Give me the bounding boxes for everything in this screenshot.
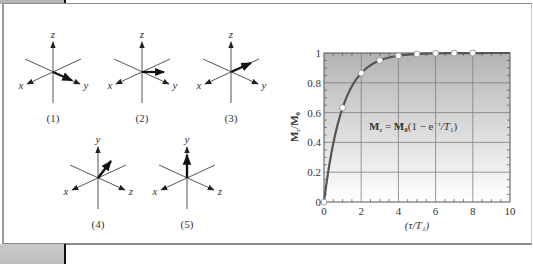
x-tick-label: 6	[433, 205, 439, 217]
x-tick-label: 8	[470, 205, 476, 217]
axis-label-left: x	[196, 79, 202, 91]
equation-annotation: Mz = M0(1 − e−τ/T1)	[369, 120, 457, 134]
axis-label-right: z	[217, 185, 223, 197]
y-axis-label: Mz/M0	[288, 111, 302, 142]
axis-label-right: y	[172, 79, 178, 91]
axis-label-top: z	[139, 28, 145, 40]
axis-label-left: x	[63, 185, 69, 197]
data-point-marker	[414, 51, 420, 57]
magnetization-vector-icon	[231, 63, 251, 72]
axis-label-top: z	[228, 28, 234, 40]
y-tick-label: 0.8	[307, 77, 321, 89]
data-point-marker	[433, 50, 439, 56]
x-tick-label: 4	[396, 205, 402, 217]
y-tick-label: 0.6	[307, 107, 321, 119]
data-point-marker	[451, 50, 457, 56]
figure-canvas: z x y (1) z x y (2) z x y (3) y x z (4)	[0, 0, 533, 264]
axes-diagram-3: z x y (3)	[196, 28, 267, 125]
relaxation-chart: 0 0.2 0.4 0.6 0.8 1 0 2 4 6 8 10 (τ/T₁) …	[288, 47, 516, 232]
axes-diagram-1: z x y (1)	[18, 28, 89, 125]
diagram-caption: (3)	[225, 112, 238, 125]
axis-label-left: x	[152, 185, 158, 197]
diagram-caption: (5)	[181, 218, 194, 231]
data-point-marker	[395, 53, 401, 59]
axis-label-top: y	[184, 133, 190, 145]
axis-label-right: y	[83, 79, 89, 91]
data-point-marker	[377, 57, 383, 63]
axes-diagram-4: y x z (4)	[63, 133, 134, 231]
axis-label-right: y	[261, 79, 267, 91]
axis-label-left: x	[107, 79, 113, 91]
axis-label-top: z	[50, 28, 56, 40]
data-point-marker	[470, 50, 476, 56]
axis-label-left: x	[18, 79, 24, 91]
y-tick-labels: 0 0.2 0.4 0.6 0.8 1	[307, 47, 321, 208]
data-point-marker	[358, 70, 364, 76]
x-tick-label: 2	[358, 205, 364, 217]
y-tick-label: 0.2	[307, 166, 321, 178]
diagram-caption: (4)	[92, 218, 105, 231]
diagram-caption: (1)	[47, 112, 60, 125]
data-point-marker	[340, 105, 346, 111]
x-tick-label: 0	[321, 205, 327, 217]
axis-label-top: y	[95, 133, 101, 145]
x-tick-labels: 0 2 4 6 8 10	[321, 205, 516, 217]
x-tick-label: 10	[505, 205, 517, 217]
y-tick-label: 0.4	[307, 136, 321, 148]
y-tick-label: 1	[316, 47, 322, 59]
axes-diagram-2: z x y (2)	[107, 28, 178, 125]
diagram-caption: (2)	[136, 112, 149, 125]
axes-diagram-5: y x z (5)	[152, 133, 223, 231]
magnetization-vector-icon	[53, 72, 72, 81]
axis-label-right: z	[128, 185, 134, 197]
x-axis-label: (τ/T₁)	[405, 219, 430, 232]
